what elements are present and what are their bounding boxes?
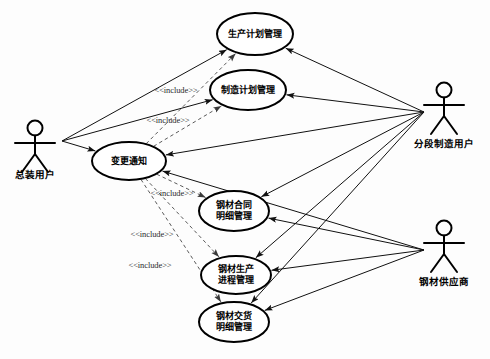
association-line [286,48,424,112]
actor-left-leg-icon [431,254,444,272]
actor-label: 分段制造用户 [414,138,474,149]
association-line [287,95,425,112]
association-line [166,112,424,155]
use-case-node[interactable]: 变更通知 [92,142,166,180]
include-stereotype-label: <<include>> [128,260,171,270]
use-case-node[interactable]: 制造计划管理 [210,70,286,110]
include-stereotype-label: <<include>> [130,229,173,239]
use-case-label: 钢材生产 [218,263,254,274]
use-case-shapes-layer: 生产计划管理制造计划管理变更通知钢材合同明细管理钢材生产进程管理钢材交货明细管理 [92,13,293,342]
use-case-label: 变更通知 [111,155,147,166]
include-dependency-line [154,106,222,146]
use-case-label: 生产计划管理 [228,28,282,39]
use-case-label: 明细管理 [216,210,252,221]
actor-node[interactable]: 钢材供应商 [419,221,469,288]
include-stereotype-label: <<include>> [154,85,197,95]
association-line [251,112,424,303]
use-case-label: 进程管理 [218,274,254,285]
actor-head-icon [437,83,452,98]
association-line [269,218,425,250]
actor-label: 总装用户 [15,169,55,180]
use-case-node[interactable]: 钢材生产进程管理 [201,256,271,294]
use-case-label: 钢材合同 [216,199,252,210]
include-stereotype-label: <<include>> [146,115,189,125]
association-line [62,141,95,151]
include-stereotype-label: <<include>> [150,188,193,198]
association-line [256,112,424,258]
use-case-label: 钢材交货 [216,310,252,321]
association-line [261,112,424,197]
association-line [265,250,424,310]
use-case-node[interactable]: 钢材合同明细管理 [199,191,269,231]
use-case-node[interactable]: 生产计划管理 [217,13,293,55]
actor-node[interactable]: 分段制造用户 [414,83,474,150]
association-line [272,250,425,270]
actor-right-leg-icon [444,116,457,134]
actor-right-leg-icon [444,254,457,272]
actor-node[interactable]: 总装用户 [15,121,55,181]
use-case-label: 明细管理 [216,321,252,332]
actor-head-icon [28,121,43,136]
actor-left-leg-icon [431,116,444,134]
uml-svg-root: 生产计划管理制造计划管理变更通知钢材合同明细管理钢材生产进程管理钢材交货明细管理… [0,0,490,359]
association-line [62,50,227,141]
association-line [62,100,213,141]
use-case-diagram-canvas: 生产计划管理制造计划管理变更通知钢材合同明细管理钢材生产进程管理钢材交货明细管理… [0,0,490,359]
actor-label: 钢材供应商 [419,276,469,287]
use-case-label: 制造计划管理 [221,84,275,95]
actor-head-icon [437,221,452,236]
use-case-node[interactable]: 钢材交货明细管理 [199,302,269,342]
